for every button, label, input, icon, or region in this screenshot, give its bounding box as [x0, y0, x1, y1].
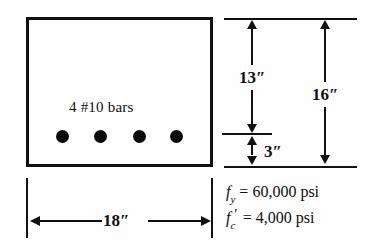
- fc-prime: ′: [234, 206, 237, 222]
- dimline-13in-lower: [251, 90, 253, 125]
- extension-line-top: [224, 18, 357, 20]
- dimline-16in-upper: [324, 27, 326, 82]
- dimline-16in-lower: [324, 107, 326, 155]
- rebar-bar-1: [56, 130, 69, 143]
- dimension-18in-label: 18″: [103, 212, 129, 229]
- extension-line-bottom: [224, 166, 357, 168]
- dimension-3in-label: 3″: [264, 143, 282, 160]
- fc-value: 4,000: [256, 209, 292, 226]
- arrow-18in-left: [30, 216, 40, 226]
- figure-canvas: 4 #10 bars 13″ 3″ 16″ 18″ fy = 60,000 ps…: [0, 0, 373, 252]
- beam-cross-section-outline: 4 #10 bars: [26, 17, 213, 167]
- rebar-bar-2: [94, 130, 107, 143]
- steel-yield-strength-row: fy = 60,000 psi: [226, 180, 319, 206]
- arrow-16in-down: [320, 155, 330, 164]
- dimline-3in: [251, 143, 253, 155]
- dimline-18in-right: [148, 220, 202, 222]
- arrow-13in-down: [247, 124, 257, 133]
- fy-units: psi: [300, 183, 319, 200]
- fc-equals: =: [243, 209, 252, 226]
- arrow-18in-right: [201, 216, 211, 226]
- extension-line-left: [26, 178, 28, 238]
- extension-line-right: [211, 178, 213, 238]
- reinforcement-label: 4 #10 bars: [69, 100, 134, 115]
- extension-line-middle: [222, 133, 272, 135]
- dimline-18in-left: [40, 220, 102, 222]
- fy-subscript: y: [230, 193, 235, 205]
- material-properties: fy = 60,000 psi fc′ = 4,000 psi: [226, 180, 319, 232]
- rebar-bar-4: [170, 130, 183, 143]
- fc-units: psi: [296, 209, 315, 226]
- dimline-13in-upper: [251, 27, 253, 65]
- fy-equals: =: [239, 183, 248, 200]
- concrete-strength-row: fc′ = 4,000 psi: [226, 206, 319, 232]
- fy-value: 60,000: [252, 183, 296, 200]
- rebar-bar-3: [133, 130, 146, 143]
- dimension-13in-label: 13″: [239, 69, 265, 86]
- arrow-3in-down: [247, 156, 257, 165]
- dimension-16in-label: 16″: [312, 86, 338, 103]
